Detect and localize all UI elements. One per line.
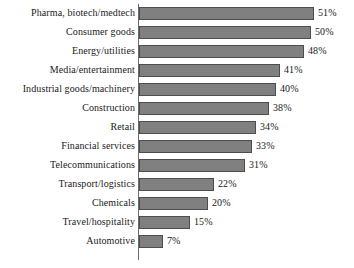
- bar-value-label: 15%: [194, 214, 213, 233]
- bar: [139, 140, 252, 153]
- bar-fill: [139, 83, 276, 96]
- category-label: Pharma, biotech/medtech: [31, 5, 135, 24]
- bar-row: Chemicals20%: [0, 195, 354, 214]
- bar-value-label: 48%: [308, 43, 327, 62]
- category-label: Travel/hospitality: [62, 214, 135, 233]
- category-label: Energy/utilities: [72, 43, 135, 62]
- bar-row: Construction38%: [0, 100, 354, 119]
- bar-row: Energy/utilities48%: [0, 43, 354, 62]
- bar-row: Pharma, biotech/medtech51%: [0, 5, 354, 24]
- bar: [139, 102, 269, 115]
- bar: [139, 7, 314, 20]
- bar-row: Transport/logistics22%: [0, 176, 354, 195]
- bar: [139, 26, 311, 39]
- plot-area: Pharma, biotech/medtech51%Consumer goods…: [0, 0, 354, 268]
- bar-value-label: 7%: [167, 233, 181, 252]
- bar: [139, 178, 214, 191]
- bar-fill: [139, 45, 304, 58]
- bar-row: Consumer goods50%: [0, 24, 354, 43]
- bar-fill: [139, 159, 245, 172]
- bar-row: Telecommunications31%: [0, 157, 354, 176]
- category-label: Consumer goods: [66, 24, 135, 43]
- bar-value-label: 33%: [256, 138, 275, 157]
- bar: [139, 83, 276, 96]
- category-label: Construction: [82, 100, 135, 119]
- bar: [139, 159, 245, 172]
- bar-row: Industrial goods/machinery40%: [0, 81, 354, 100]
- bar-value-label: 31%: [249, 157, 268, 176]
- bar-value-label: 50%: [315, 24, 334, 43]
- category-label: Transport/logistics: [58, 176, 135, 195]
- bar-fill: [139, 235, 163, 248]
- bar-fill: [139, 121, 256, 134]
- bar-row: Financial services33%: [0, 138, 354, 157]
- bar: [139, 197, 208, 210]
- category-label: Chemicals: [92, 195, 135, 214]
- category-label: Retail: [111, 119, 135, 138]
- bar-value-label: 22%: [218, 176, 237, 195]
- bar-row: Automotive7%: [0, 233, 354, 252]
- bar-fill: [139, 64, 280, 77]
- bar-rows: Pharma, biotech/medtech51%Consumer goods…: [0, 5, 354, 252]
- bar-row: Media/entertainment41%: [0, 62, 354, 81]
- bar: [139, 121, 256, 134]
- bar-fill: [139, 178, 214, 191]
- category-label: Telecommunications: [50, 157, 135, 176]
- bar-fill: [139, 7, 314, 20]
- bar: [139, 235, 163, 248]
- bar-row: Travel/hospitality15%: [0, 214, 354, 233]
- bar-value-label: 41%: [284, 62, 303, 81]
- bar: [139, 45, 304, 58]
- bar-fill: [139, 26, 311, 39]
- bar-value-label: 34%: [260, 119, 279, 138]
- bar-value-label: 40%: [280, 81, 299, 100]
- category-label: Financial services: [61, 138, 135, 157]
- bar-chart: Pharma, biotech/medtech51%Consumer goods…: [0, 0, 354, 268]
- bar: [139, 216, 190, 229]
- bar-value-label: 20%: [212, 195, 231, 214]
- bar-fill: [139, 216, 190, 229]
- category-label: Automotive: [86, 233, 135, 252]
- bar-fill: [139, 197, 208, 210]
- bar-row: Retail34%: [0, 119, 354, 138]
- bar-value-label: 38%: [273, 100, 292, 119]
- bar-value-label: 51%: [318, 5, 337, 24]
- category-label: Media/entertainment: [50, 62, 135, 81]
- bar-fill: [139, 102, 269, 115]
- bar: [139, 64, 280, 77]
- bar-fill: [139, 140, 252, 153]
- category-label: Industrial goods/machinery: [23, 81, 135, 100]
